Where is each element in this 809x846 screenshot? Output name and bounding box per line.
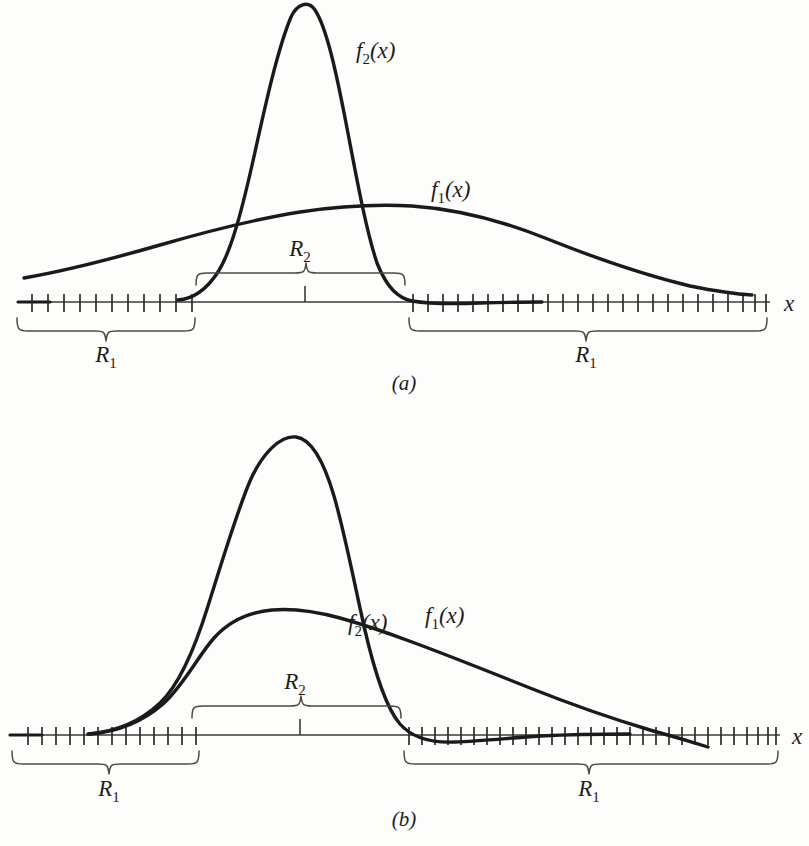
brace-r1-right-b: [404, 751, 778, 774]
region-label-r1-left-a: R1: [94, 342, 117, 371]
curve-f1-b: [90, 609, 708, 747]
region-label-r1-right-b: R1: [577, 776, 600, 805]
curve-label-f2-a: f2(x): [356, 38, 395, 67]
curve-label-f1-b: f1(x): [425, 603, 464, 632]
brace-r1-left-a: [17, 318, 195, 341]
panel-caption-b: (b): [392, 807, 417, 831]
region-label-r2-a: R2: [288, 236, 311, 265]
brace-r2-b: [192, 696, 401, 718]
brace-r1-right-a: [409, 318, 767, 341]
axis-label-x-a: x: [783, 291, 795, 316]
panel-b: f2(x) f1(x) R1 R2 R1 x (b): [0, 420, 809, 846]
brace-r1-left-b: [12, 751, 199, 774]
brace-r2-a: [196, 263, 405, 285]
region-label-r2-b: R2: [283, 669, 306, 698]
panel-a: f2(x) f1(x) R1 R2 R1 x (a): [0, 0, 809, 420]
curve-label-f2-b: f2(x): [348, 610, 387, 639]
panel-caption-a: (a): [392, 371, 417, 395]
curve-label-f1-a: f1(x): [431, 177, 470, 206]
figure-container: f2(x) f1(x) R1 R2 R1 x (a): [0, 0, 809, 846]
axis-ticks-left-a: [32, 294, 192, 312]
region-label-r1-right-a: R1: [574, 342, 597, 371]
axis-label-x-b: x: [791, 724, 803, 749]
region-label-r1-left-b: R1: [97, 776, 120, 805]
